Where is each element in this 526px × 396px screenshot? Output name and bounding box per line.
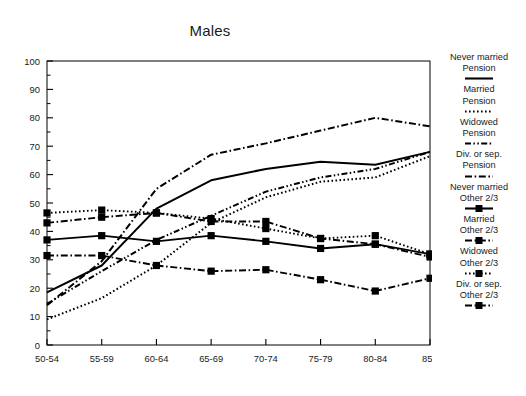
y-tick-label: 50	[30, 198, 40, 209]
series-marker	[98, 232, 105, 239]
x-tick-label: 55-59	[90, 353, 114, 364]
x-tick-label: 65-69	[199, 353, 223, 364]
legend-marker	[476, 205, 483, 212]
series-marker	[43, 252, 50, 259]
legend-swatch-dash-dot-dot	[432, 139, 526, 148]
legend-swatch-dash-dot-square-marker	[432, 301, 526, 310]
series-line	[47, 152, 430, 293]
series-marker	[98, 214, 105, 221]
legend-label-line2: Pension	[432, 63, 526, 74]
legend-entry[interactable]: MarriedPension	[432, 84, 526, 115]
legend-label-line2: Other 2/3	[432, 193, 526, 204]
y-tick-label: 60	[30, 169, 40, 180]
series-0	[47, 152, 430, 293]
series-marker	[317, 245, 324, 252]
legend-entry[interactable]: WidowedPension	[432, 117, 526, 148]
legend-label-line2: Other 2/3	[432, 225, 526, 236]
legend-label-line1: Never married	[432, 52, 526, 63]
series-marker	[317, 276, 324, 283]
y-tick-label: 80	[30, 112, 40, 123]
legend-marker	[476, 270, 483, 277]
legend-swatch-dotted	[432, 107, 526, 116]
x-tick-label: 75-79	[309, 353, 333, 364]
chart-legend: Never marriedPensionMarriedPensionWidowe…	[432, 52, 526, 311]
legend-label-line2: Other 2/3	[432, 258, 526, 269]
series-marker	[208, 268, 215, 275]
series-marker	[317, 235, 324, 242]
legend-label-line2: Pension	[432, 128, 526, 139]
legend-marker	[476, 237, 483, 244]
legend-label-line1: Married	[432, 84, 526, 95]
series-marker	[262, 266, 269, 273]
series-marker	[262, 218, 269, 225]
legend-label-line1: Never married	[432, 182, 526, 193]
series-marker	[153, 209, 160, 216]
y-tick-label: 40	[30, 226, 40, 237]
chart-container: Males 010203040506070809010050-5455-5960…	[0, 0, 526, 396]
y-tick-label: 100	[24, 56, 40, 67]
legend-swatch-dash-dot-square-marker	[432, 236, 526, 245]
series-marker	[372, 241, 379, 248]
series-marker	[43, 219, 50, 226]
series-marker	[372, 287, 379, 294]
legend-entry[interactable]: Never marriedPension	[432, 52, 526, 83]
y-tick-label: 30	[30, 254, 40, 265]
y-tick-label: 90	[30, 84, 40, 95]
legend-label-line2: Other 2/3	[432, 290, 526, 301]
series-marker	[208, 232, 215, 239]
series-5	[43, 252, 432, 295]
legend-entry[interactable]: Div. or sep.Pension	[432, 149, 526, 180]
y-tick-label: 70	[30, 141, 40, 152]
x-tick-label: 80-84	[363, 353, 387, 364]
series-marker	[262, 225, 269, 232]
legend-label-line1: Widowed	[432, 246, 526, 257]
x-tick-label: 70-74	[254, 353, 278, 364]
y-tick-label: 10	[30, 311, 40, 322]
series-marker	[43, 209, 50, 216]
legend-entry[interactable]: MarriedOther 2/3	[432, 214, 526, 245]
series-marker	[153, 262, 160, 269]
series-marker	[208, 218, 215, 225]
series-marker	[98, 207, 105, 214]
series-marker	[43, 236, 50, 243]
series-marker	[98, 252, 105, 259]
y-tick-label: 0	[35, 340, 40, 351]
series-line	[47, 256, 430, 292]
legend-label-line1: Married	[432, 214, 526, 225]
x-tick-label: 60-64	[144, 353, 168, 364]
legend-label-line2: Pension	[432, 96, 526, 107]
legend-entry[interactable]: WidowedOther 2/3	[432, 246, 526, 277]
legend-entry[interactable]: Never marriedOther 2/3	[432, 182, 526, 213]
legend-label-line1: Widowed	[432, 117, 526, 128]
plot-frame	[47, 61, 430, 345]
x-tick-label: 85+	[422, 353, 432, 364]
legend-label-line1: Div. or sep.	[432, 149, 526, 160]
legend-swatch-dash-dot	[432, 172, 526, 181]
legend-swatch-dotted-square-marker	[432, 269, 526, 278]
series-marker	[153, 238, 160, 245]
legend-swatch-solid-square-marker	[432, 204, 526, 213]
series-marker	[372, 232, 379, 239]
plot-area: 010203040506070809010050-5455-5960-6465-…	[0, 0, 432, 396]
legend-entry[interactable]: Div. or sep.Other 2/3	[432, 279, 526, 310]
legend-marker	[476, 302, 483, 309]
legend-label-line1: Div. or sep.	[432, 279, 526, 290]
x-tick-label: 50-54	[35, 353, 59, 364]
legend-label-line2: Pension	[432, 160, 526, 171]
legend-swatch-solid	[432, 74, 526, 83]
y-tick-label: 20	[30, 283, 40, 294]
series-marker	[262, 238, 269, 245]
